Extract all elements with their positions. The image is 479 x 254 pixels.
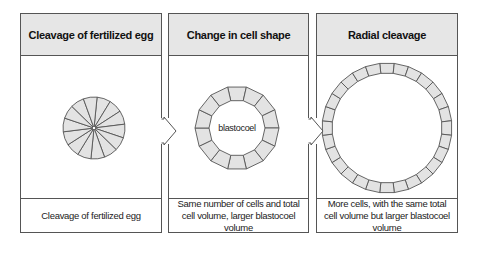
cell	[380, 63, 395, 73]
cell	[322, 121, 332, 136]
panel-radial-cleavage: Radial cleavage More cells, with the sam…	[316, 13, 458, 233]
cell	[393, 180, 408, 193]
cell-ring-figure: blastocoel	[169, 56, 308, 197]
panel-caption: Same number of cells and total cell volu…	[169, 198, 308, 232]
cell	[322, 134, 335, 149]
cell	[380, 183, 395, 193]
cell	[366, 63, 381, 76]
panel-cleavage-fertilized-egg: Cleavage of fertilized egg Cleavage of f…	[20, 13, 162, 233]
fertilized-egg-figure	[21, 56, 161, 197]
panel-caption: Cleavage of fertilized egg	[21, 198, 161, 232]
radial-cleavage-cell-ring	[317, 56, 457, 199]
panel-title: Cleavage of fertilized egg	[21, 14, 161, 56]
blastula-cell-ring: blastocoel	[169, 56, 308, 199]
panel-title: Radial cleavage	[317, 14, 457, 56]
panel-caption: More cells, with the same total cell vol…	[317, 198, 457, 232]
cell	[442, 121, 452, 136]
panel-title: Change in cell shape	[169, 14, 308, 56]
cell	[439, 107, 452, 122]
blastocoel-label: blastocoel	[218, 123, 256, 133]
panel-change-in-cell-shape: Change in cell shape blastocoel Same num…	[168, 13, 309, 233]
large-cell-ring-figure	[317, 56, 457, 197]
segmented-egg-disc	[21, 56, 161, 199]
